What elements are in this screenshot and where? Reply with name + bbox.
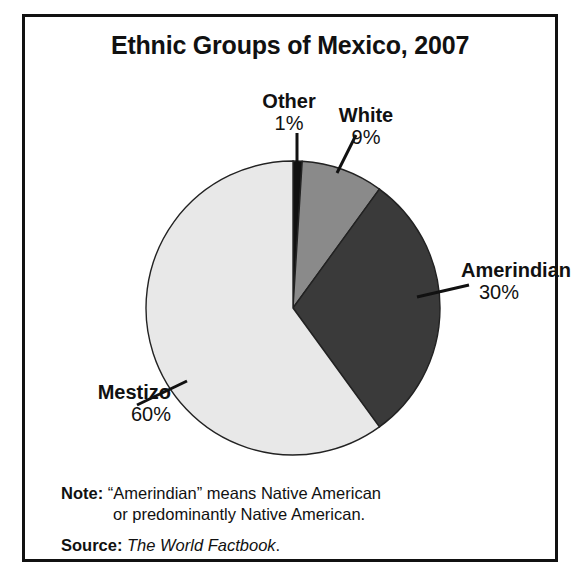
slice-label-mestizo-name: Mestizo <box>63 382 171 404</box>
figure-note-text-1: “Amerindian” means Native American <box>108 484 381 502</box>
figure-note-text-2: or predominantly Native American. <box>61 504 531 525</box>
figure-footnotes: Note: “Amerindian” means Native American… <box>61 483 531 556</box>
slice-label-mestizo: Mestizo 60% <box>63 382 171 425</box>
slice-label-amerindian: Amerindian 30% <box>461 260 571 303</box>
figure-source-title: The World Factbook <box>127 536 276 554</box>
figure-source-label: Source: <box>61 536 122 554</box>
slice-label-other-value: 1% <box>253 113 325 135</box>
figure-source: Source: The World Factbook. <box>61 535 531 556</box>
slice-label-white-value: 9% <box>331 127 401 149</box>
slice-label-other: Other 1% <box>253 91 325 134</box>
slice-label-amerindian-value: 30% <box>461 282 571 304</box>
chart-figure-frame: Ethnic Groups of Mexico, 2007 Other 1% W… <box>22 14 558 562</box>
slice-label-white-name: White <box>331 105 401 127</box>
slice-label-other-name: Other <box>253 91 325 113</box>
slice-label-mestizo-value: 60% <box>63 404 171 426</box>
figure-note-line-1: Note: “Amerindian” means Native American <box>61 483 531 504</box>
slice-label-amerindian-name: Amerindian <box>461 260 571 282</box>
figure-note: Note: “Amerindian” means Native American… <box>61 483 531 526</box>
figure-note-label: Note: <box>61 484 103 502</box>
slice-label-white: White 9% <box>331 105 401 148</box>
figure-source-period: . <box>276 536 281 554</box>
